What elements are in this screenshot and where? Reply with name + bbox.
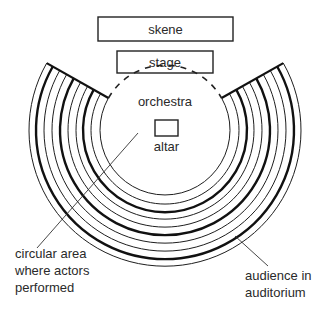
stage-block: stage bbox=[117, 51, 213, 73]
audience-annotation: audience in auditorium bbox=[245, 268, 312, 300]
skene-label: skene bbox=[148, 22, 183, 37]
altar-label: altar bbox=[154, 139, 180, 154]
stage-label: stage bbox=[149, 55, 181, 70]
skene-block: skene bbox=[98, 17, 233, 41]
circular-area-text-line1: circular area bbox=[15, 246, 87, 261]
orchestra-label: orchestra bbox=[138, 94, 193, 109]
audience-leader-line bbox=[235, 236, 268, 266]
greek-theatre-diagram: skene stage orchestra altar circular are… bbox=[0, 0, 327, 311]
audience-text-line2: auditorium bbox=[245, 285, 306, 300]
auditorium-left-edge bbox=[47, 63, 109, 98]
circular-area-text-line3: performed bbox=[15, 280, 74, 295]
circular-area-text-line2: where actors bbox=[14, 263, 90, 278]
audience-text-line1: audience in bbox=[245, 268, 312, 283]
circular-area-annotation: circular area where actors performed bbox=[14, 246, 90, 295]
altar-rect bbox=[155, 120, 178, 136]
auditorium-right-edge bbox=[222, 63, 284, 98]
